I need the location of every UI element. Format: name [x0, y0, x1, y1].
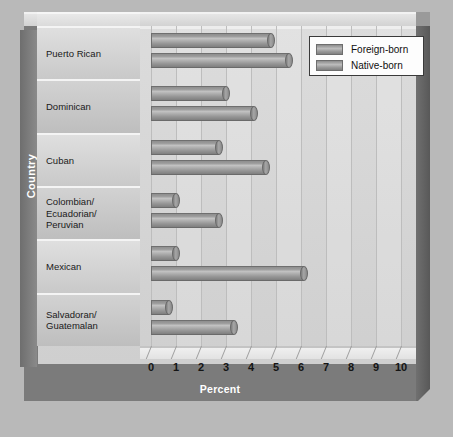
bar-foreign-born	[151, 140, 219, 155]
bar-native-born	[151, 106, 254, 121]
legend-entry-foreign-born: Foreign-born	[316, 42, 408, 56]
y-axis-title: Country	[25, 121, 37, 231]
bar-end-cap	[230, 320, 238, 335]
bar-native-born	[151, 160, 266, 175]
bar-end-cap	[215, 140, 223, 155]
x-tick-label: 9	[367, 361, 385, 373]
category-label-column: Puerto RicanDominicanCubanColombian/ Ecu…	[37, 26, 140, 364]
x-tick-label: 6	[292, 361, 310, 373]
frame-right-face	[416, 26, 430, 401]
legend-label-foreign-born: Foreign-born	[351, 44, 408, 55]
category-label: Dominican	[46, 101, 91, 113]
x-tick-label: 2	[192, 361, 210, 373]
bar-native-born	[151, 320, 234, 335]
bar-native-born	[151, 266, 304, 281]
bar-end-cap	[300, 266, 308, 281]
legend-swatch-native-born	[316, 60, 343, 71]
y-axis-spine: Country	[20, 30, 37, 367]
x-tick-label: 4	[242, 361, 260, 373]
x-tick-label: 8	[342, 361, 360, 373]
gridline	[301, 26, 302, 346]
x-tick-label: 7	[317, 361, 335, 373]
category-label: Mexican	[46, 261, 81, 273]
bar-end-cap	[285, 53, 293, 68]
x-tick-label: 10	[392, 361, 410, 373]
grid-band	[226, 26, 251, 346]
bar-foreign-born	[151, 193, 176, 208]
category-label: Cuban	[46, 155, 74, 167]
bar-end-cap	[215, 213, 223, 228]
gridline	[151, 26, 152, 346]
bar-foreign-born	[151, 86, 226, 101]
bar-end-cap	[250, 106, 258, 121]
bar-end-cap	[267, 33, 275, 48]
x-tick-label: 1	[167, 361, 185, 373]
bar-foreign-born	[151, 300, 169, 315]
gridline	[201, 26, 202, 346]
legend-label-native-born: Native-born	[351, 60, 403, 71]
x-axis-title: Percent	[24, 383, 416, 395]
bar-end-cap	[165, 300, 173, 315]
grid-band	[176, 26, 201, 346]
legend-swatch-foreign-born	[316, 44, 343, 55]
x-tick-label: 3	[217, 361, 235, 373]
category-column-top-bevel	[37, 12, 140, 14]
x-tick-label: 0	[142, 361, 160, 373]
bar-foreign-born	[151, 246, 176, 261]
x-tick-label: 5	[267, 361, 285, 373]
bar-foreign-born	[151, 33, 271, 48]
category-label: Salvadoran/ Guatemalan	[46, 309, 98, 332]
bar-chart: Country Puerto RicanDominicanCubanColomb…	[0, 0, 453, 437]
grid-band	[276, 26, 301, 346]
chart-legend: Foreign-born Native-born	[309, 36, 424, 76]
bar-native-born	[151, 213, 219, 228]
bar-native-born	[151, 53, 289, 68]
bar-end-cap	[262, 160, 270, 175]
gridline	[251, 26, 252, 346]
gridline	[176, 26, 177, 346]
category-label: Puerto Rican	[46, 48, 101, 60]
gridline	[226, 26, 227, 346]
bar-end-cap	[172, 193, 180, 208]
frame-corner	[416, 12, 430, 26]
legend-entry-native-born: Native-born	[316, 58, 403, 72]
category-label: Colombian/ Ecuadorian/ Peruvian	[46, 196, 97, 231]
gridline	[276, 26, 277, 346]
